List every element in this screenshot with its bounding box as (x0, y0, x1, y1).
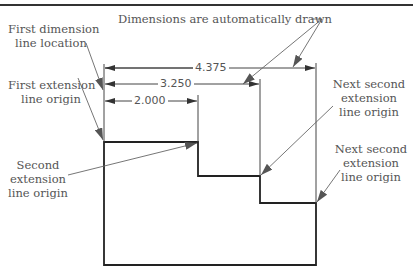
leader-auto-2 (293, 19, 322, 67)
dimension-diagram: 4.375 3.250 2.000 First dimension line l… (0, 0, 413, 270)
dim-text-3250: 3.250 (158, 78, 194, 90)
label-auto-drawn: Dimensions are automatically drawn (118, 12, 332, 26)
label-second-extension-origin: Second extension line origin (8, 158, 68, 200)
label-next-second-extension-b: Next second extension line origin (332, 142, 410, 184)
dim-text-4375: 4.375 (193, 62, 229, 74)
leader-second-ext (68, 143, 197, 175)
label-next-second-extension-a: Next second extension line origin (326, 77, 412, 119)
label-first-dimension-line: First dimension line location (8, 22, 94, 50)
leader-next-second-a (261, 106, 333, 175)
part-outline (104, 142, 316, 265)
dim-text-2000: 2.000 (132, 95, 168, 107)
leader-auto-1 (243, 19, 322, 84)
label-first-extension-origin: First extension line origin (8, 78, 94, 106)
